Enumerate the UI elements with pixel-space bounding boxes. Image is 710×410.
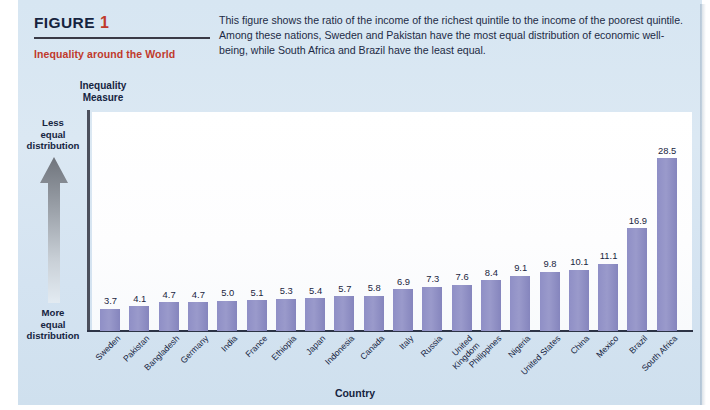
bar-value-label: 11.1 (590, 250, 627, 261)
more-equal-annotation: More equal distribution (18, 307, 88, 342)
x-tick-label-russia: Russia (420, 334, 445, 359)
x-tick-label-canada: Canada (358, 334, 386, 362)
bar-canada[interactable]: 5.8 (360, 112, 389, 331)
bar-nigeria[interactable]: 9.1 (506, 112, 535, 331)
bars-container: 3.74.14.74.75.05.15.35.45.75.86.97.37.68… (92, 112, 692, 331)
bar-rect[interactable] (129, 306, 149, 331)
figure-description: This figure shows the ratio of the incom… (219, 13, 689, 59)
bar-rect[interactable] (627, 228, 647, 331)
x-tick-label-indonesia: Indonesia (324, 334, 357, 367)
bar-india[interactable]: 5.0 (213, 112, 242, 331)
bar-value-label: 16.9 (619, 215, 656, 226)
bar-rect[interactable] (452, 285, 472, 331)
figure-header: FIGURE1 Inequality around the World (34, 14, 214, 60)
up-arrow-icon (40, 157, 68, 303)
x-tick-label-brazil: Brazil (628, 334, 650, 356)
bar-china[interactable]: 10.1 (565, 112, 594, 331)
bar-value-label: 28.5 (649, 145, 686, 156)
bar-united-kingdom[interactable]: 7.6 (448, 112, 477, 331)
x-tick-label-japan: Japan (305, 334, 328, 357)
figure-divider (34, 37, 210, 39)
y-axis-title-line2: Measure (83, 92, 124, 103)
bar-rect[interactable] (364, 296, 384, 331)
bar-rect[interactable] (217, 301, 237, 331)
bar-italy[interactable]: 6.9 (389, 112, 418, 331)
x-tick-label-ethiopia: Ethiopia (270, 334, 299, 363)
bar-japan[interactable]: 5.4 (301, 112, 330, 331)
bar-indonesia[interactable]: 5.7 (330, 112, 359, 331)
y-axis-title-line1: Inequality (80, 80, 127, 91)
bar-south-africa[interactable]: 28.5 (653, 112, 682, 331)
y-axis-line (87, 110, 90, 332)
figure-title: FIGURE1 (34, 14, 214, 32)
x-tick-label-france: France (244, 334, 270, 360)
figure-page: FIGURE1 Inequality around the World This… (0, 0, 710, 410)
bar-rect[interactable] (276, 299, 296, 331)
figure-label: FIGURE (34, 14, 95, 31)
bar-france[interactable]: 5.1 (243, 112, 272, 331)
figure-subtitle: Inequality around the World (34, 48, 214, 60)
bar-rect[interactable] (481, 280, 501, 331)
bar-russia[interactable]: 7.3 (418, 112, 447, 331)
x-tick-label-italy: Italy (398, 334, 416, 352)
figure-number: 1 (100, 14, 109, 31)
x-axis-title: Country (0, 387, 710, 399)
bar-rect[interactable] (305, 298, 325, 331)
x-tick-label-sweden: Sweden (94, 334, 123, 363)
bar-ethiopia[interactable]: 5.3 (272, 112, 301, 331)
bar-rect[interactable] (159, 302, 179, 331)
x-tick-labels: SwedenPakistanBangladeshGermanyIndiaFran… (92, 334, 702, 394)
bar-rect[interactable] (510, 276, 530, 331)
bar-rect[interactable] (569, 270, 589, 331)
x-tick-label-nigeria: Nigeria (507, 334, 533, 360)
bar-rect[interactable] (540, 272, 560, 331)
bar-rect[interactable] (100, 309, 120, 331)
bar-united-states[interactable]: 9.8 (536, 112, 565, 331)
bar-rect[interactable] (334, 296, 354, 331)
x-tick-label-mexico: Mexico (595, 334, 621, 360)
less-equal-annotation: Less equal distribution (22, 117, 84, 152)
bar-rect[interactable] (393, 289, 413, 331)
bar-rect[interactable] (188, 302, 208, 331)
x-tick-label-germany: Germany (179, 334, 211, 366)
x-tick-label-india: India (220, 334, 240, 354)
bar-philippines[interactable]: 8.4 (477, 112, 506, 331)
bar-rect[interactable] (598, 264, 618, 331)
y-axis-title: Inequality Measure (63, 80, 143, 103)
bar-rect[interactable] (422, 287, 442, 331)
bar-rect[interactable] (657, 158, 677, 331)
x-tick-label-china: China (569, 334, 592, 357)
bar-rect[interactable] (247, 300, 267, 331)
